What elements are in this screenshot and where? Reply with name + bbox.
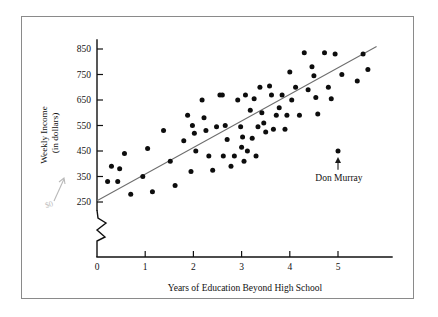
data-point [192, 131, 197, 136]
data-point [309, 64, 314, 69]
data-point [238, 124, 243, 129]
data-point [243, 92, 248, 97]
data-point [168, 159, 173, 164]
data-point [145, 146, 150, 151]
data-point [365, 67, 370, 72]
data-point [150, 189, 155, 194]
data-point [277, 105, 282, 110]
y-axis-tick-label: 450 [77, 146, 92, 156]
data-point [185, 113, 190, 118]
data-point [248, 108, 253, 113]
data-point [259, 110, 264, 115]
data-point [339, 72, 344, 77]
data-point [245, 149, 250, 154]
data-point [336, 149, 341, 154]
data-point [193, 149, 198, 154]
data-point [239, 145, 244, 150]
data-point [326, 85, 331, 90]
data-point [293, 85, 298, 90]
data-point [140, 174, 145, 179]
data-point [355, 78, 360, 83]
data-point [105, 179, 110, 184]
data-point [313, 95, 318, 100]
data-point [261, 120, 266, 125]
data-point [250, 136, 255, 141]
data-point [315, 112, 320, 117]
data-point [274, 113, 279, 118]
data-point [361, 52, 366, 57]
y-axis-tick-label: 250 [77, 197, 92, 207]
data-point [109, 164, 114, 169]
annotations-layer: Don Murray$0 [44, 157, 363, 210]
data-point [200, 98, 205, 103]
data-point [289, 98, 294, 103]
data-point [214, 124, 219, 129]
data-point [225, 137, 230, 142]
y-axis-tick-label: 650 [77, 95, 92, 105]
data-point [128, 192, 133, 197]
figure-container: 250350450550650750850012345 Don Murray$0… [0, 0, 438, 317]
data-point [284, 113, 289, 118]
data-point [223, 123, 228, 128]
data-point [254, 154, 259, 159]
y-axis-tick-label: 850 [77, 44, 92, 54]
x-axis-tick-label: 2 [191, 262, 196, 272]
data-point [322, 50, 327, 55]
data-point [117, 166, 122, 171]
data-point [329, 96, 334, 101]
data-point [263, 129, 268, 134]
data-point [280, 92, 285, 97]
x-axis-tick-label: 4 [287, 262, 292, 272]
x-axis-title: Years of Education Beyond High School [168, 283, 323, 293]
data-point [302, 50, 307, 55]
data-point [287, 69, 292, 74]
data-point [252, 96, 257, 101]
data-point [267, 83, 272, 88]
pencil-annotation-text: $0 [44, 199, 54, 210]
data-point [202, 115, 207, 120]
y-axis-title-line2: (in dollars) [50, 113, 60, 154]
annotation-label: Don Murray [315, 173, 362, 183]
data-point [232, 154, 237, 159]
data-point [188, 169, 193, 174]
x-axis-tick-label: 5 [336, 262, 341, 272]
x-axis-tick-label: 0 [95, 262, 100, 272]
scatter-plot: 250350450550650750850012345 Don Murray$0… [0, 0, 438, 317]
y-axis-tick-label: 350 [77, 172, 92, 182]
y-axis-break-zigzag [97, 210, 106, 257]
data-point [206, 154, 211, 159]
data-point [221, 154, 226, 159]
data-point [210, 168, 215, 173]
data-point [255, 124, 260, 129]
data-point [203, 128, 208, 133]
y-axis-title-line1: Weekly Income [39, 106, 49, 164]
data-point [115, 179, 120, 184]
pencil-arrow-shaft [54, 179, 64, 201]
data-point [297, 113, 302, 118]
x-axis-tick-label: 1 [143, 262, 148, 272]
data-point [311, 73, 316, 78]
data-point [122, 151, 127, 156]
data-point [228, 164, 233, 169]
data-point [181, 138, 186, 143]
data-point [257, 85, 262, 90]
callout-arrow-head [335, 157, 341, 163]
data-point [240, 134, 245, 139]
data-point [173, 183, 178, 188]
data-point [306, 87, 311, 92]
data-point [190, 123, 195, 128]
data-point [271, 127, 276, 132]
y-axis-tick-label: 550 [77, 121, 92, 131]
data-point [333, 52, 338, 57]
y-axis-tick-label: 750 [77, 70, 92, 80]
data-point [269, 92, 274, 97]
data-point [161, 128, 166, 133]
data-point [220, 92, 225, 97]
data-point [282, 127, 287, 132]
data-point [242, 159, 247, 164]
x-axis-tick-label: 3 [239, 262, 244, 272]
data-point [235, 98, 240, 103]
